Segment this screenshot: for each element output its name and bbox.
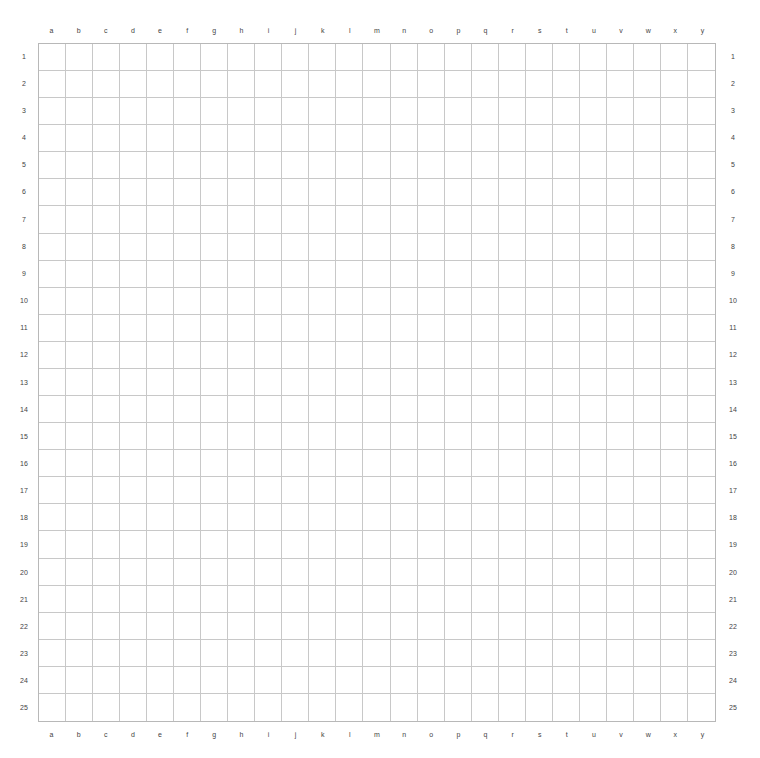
board-cell-s3[interactable] [526, 98, 553, 125]
board-cell-k17[interactable] [309, 477, 336, 504]
board-cell-l25[interactable] [336, 694, 363, 721]
board-cell-a15[interactable] [39, 423, 66, 450]
board-cell-v8[interactable] [607, 234, 634, 261]
board-cell-d12[interactable] [120, 342, 147, 369]
board-cell-w13[interactable] [634, 369, 661, 396]
board-cell-v21[interactable] [607, 586, 634, 613]
board-cell-y5[interactable] [688, 152, 715, 179]
board-cell-y9[interactable] [688, 261, 715, 288]
board-cell-k4[interactable] [309, 125, 336, 152]
board-cell-d6[interactable] [120, 179, 147, 206]
board-cell-u10[interactable] [580, 288, 607, 315]
board-cell-t9[interactable] [553, 261, 580, 288]
board-cell-c11[interactable] [93, 315, 120, 342]
board-cell-t8[interactable] [553, 234, 580, 261]
board-cell-i22[interactable] [255, 613, 282, 640]
board-cell-o24[interactable] [418, 667, 445, 694]
board-cell-g8[interactable] [201, 234, 228, 261]
board-cell-k15[interactable] [309, 423, 336, 450]
board-cell-e19[interactable] [147, 531, 174, 558]
board-cell-f24[interactable] [174, 667, 201, 694]
board-cell-l8[interactable] [336, 234, 363, 261]
board-cell-l12[interactable] [336, 342, 363, 369]
board-cell-t2[interactable] [553, 71, 580, 98]
board-cell-m9[interactable] [363, 261, 390, 288]
board-cell-t6[interactable] [553, 179, 580, 206]
board-cell-y14[interactable] [688, 396, 715, 423]
board-cell-a10[interactable] [39, 288, 66, 315]
board-cell-t24[interactable] [553, 667, 580, 694]
board-cell-k3[interactable] [309, 98, 336, 125]
board-cell-q9[interactable] [472, 261, 499, 288]
board-cell-r19[interactable] [499, 531, 526, 558]
board-cell-k6[interactable] [309, 179, 336, 206]
board-cell-d18[interactable] [120, 504, 147, 531]
board-cell-b7[interactable] [66, 206, 93, 233]
board-cell-k10[interactable] [309, 288, 336, 315]
board-cell-o22[interactable] [418, 613, 445, 640]
board-cell-w5[interactable] [634, 152, 661, 179]
board-cell-e25[interactable] [147, 694, 174, 721]
board-cell-o5[interactable] [418, 152, 445, 179]
board-cell-y20[interactable] [688, 559, 715, 586]
board-cell-x17[interactable] [661, 477, 688, 504]
board-cell-f13[interactable] [174, 369, 201, 396]
board-cell-g19[interactable] [201, 531, 228, 558]
board-cell-k23[interactable] [309, 640, 336, 667]
board-cell-h8[interactable] [228, 234, 255, 261]
board-cell-t23[interactable] [553, 640, 580, 667]
board-cell-e9[interactable] [147, 261, 174, 288]
board-cell-m11[interactable] [363, 315, 390, 342]
board-cell-n1[interactable] [391, 44, 418, 71]
board-cell-g22[interactable] [201, 613, 228, 640]
board-cell-d2[interactable] [120, 71, 147, 98]
board-cell-w12[interactable] [634, 342, 661, 369]
board-cell-d7[interactable] [120, 206, 147, 233]
board-cell-i20[interactable] [255, 559, 282, 586]
board-cell-p18[interactable] [445, 504, 472, 531]
board-cell-v3[interactable] [607, 98, 634, 125]
board-cell-c23[interactable] [93, 640, 120, 667]
board-cell-b2[interactable] [66, 71, 93, 98]
board-cell-d8[interactable] [120, 234, 147, 261]
board-cell-w19[interactable] [634, 531, 661, 558]
board-cell-t11[interactable] [553, 315, 580, 342]
board-cell-o10[interactable] [418, 288, 445, 315]
board-cell-p10[interactable] [445, 288, 472, 315]
board-cell-f9[interactable] [174, 261, 201, 288]
board-cell-f8[interactable] [174, 234, 201, 261]
board-cell-q6[interactable] [472, 179, 499, 206]
board-cell-o16[interactable] [418, 450, 445, 477]
board-cell-j19[interactable] [282, 531, 309, 558]
board-cell-r1[interactable] [499, 44, 526, 71]
board-cell-o9[interactable] [418, 261, 445, 288]
board-cell-g2[interactable] [201, 71, 228, 98]
board-cell-l20[interactable] [336, 559, 363, 586]
board-cell-k5[interactable] [309, 152, 336, 179]
board-cell-v9[interactable] [607, 261, 634, 288]
board-cell-p13[interactable] [445, 369, 472, 396]
board-cell-s1[interactable] [526, 44, 553, 71]
board-cell-s13[interactable] [526, 369, 553, 396]
board-cell-j9[interactable] [282, 261, 309, 288]
board-cell-c24[interactable] [93, 667, 120, 694]
board-cell-b18[interactable] [66, 504, 93, 531]
board-cell-i18[interactable] [255, 504, 282, 531]
board-cell-y10[interactable] [688, 288, 715, 315]
board-cell-f14[interactable] [174, 396, 201, 423]
board-cell-k20[interactable] [309, 559, 336, 586]
board-cell-d20[interactable] [120, 559, 147, 586]
board-cell-p4[interactable] [445, 125, 472, 152]
board-cell-w14[interactable] [634, 396, 661, 423]
board-cell-s19[interactable] [526, 531, 553, 558]
board-cell-u2[interactable] [580, 71, 607, 98]
board-cell-i13[interactable] [255, 369, 282, 396]
board-cell-u5[interactable] [580, 152, 607, 179]
board-cell-d13[interactable] [120, 369, 147, 396]
board-cell-t20[interactable] [553, 559, 580, 586]
board-cell-b23[interactable] [66, 640, 93, 667]
board-cell-q22[interactable] [472, 613, 499, 640]
board-cell-r3[interactable] [499, 98, 526, 125]
board-cell-s2[interactable] [526, 71, 553, 98]
board-cell-j17[interactable] [282, 477, 309, 504]
